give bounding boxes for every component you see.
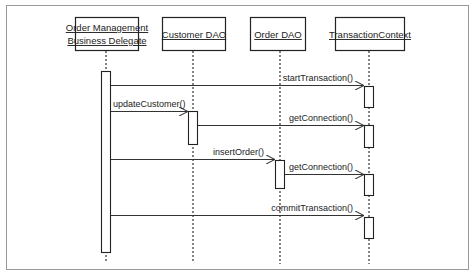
- participant-customer-dao: Customer DAO: [162, 18, 226, 51]
- activation-order-dao: [276, 161, 285, 189]
- message-label-update-customer: updateCustomer(): [113, 99, 186, 109]
- participant-label: Customer DAO: [162, 29, 226, 40]
- sequence-diagram: Order Management Business Delegate Custo…: [0, 0, 475, 279]
- activation-tx-commit: [365, 218, 374, 239]
- message-label-start-transaction: startTransaction(): [283, 73, 353, 83]
- participant-order-management-business-delegate: Order Management Business Delegate: [66, 18, 149, 51]
- message-label-get-connection-2: getConnection(): [289, 162, 353, 172]
- activation-customer-dao: [189, 112, 198, 145]
- activation-ombd: [102, 72, 111, 253]
- message-label-get-connection-1: getConnection(): [289, 113, 353, 123]
- participant-label: TransactionContext: [329, 29, 411, 40]
- participant-label-line2: Business Delegate: [67, 35, 146, 46]
- activation-tx-getconnection-1: [365, 126, 374, 148]
- participant-label-line1: Order Management: [66, 22, 149, 33]
- activation-tx-start: [365, 87, 374, 108]
- message-label-commit-transaction: commitTransaction(): [271, 203, 353, 213]
- participant-label: Order DAO: [254, 29, 302, 40]
- message-label-insert-order: insertOrder(): [213, 147, 264, 157]
- participant-transaction-context: TransactionContext: [329, 18, 411, 51]
- activation-tx-getconnection-2: [365, 175, 374, 196]
- participant-order-dao: Order DAO: [251, 18, 306, 51]
